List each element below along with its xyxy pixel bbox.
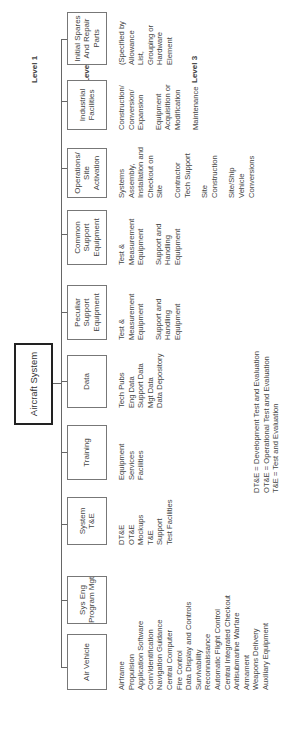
data-box: Data (67, 355, 107, 408)
list-item: Measurement (127, 219, 137, 265)
system-te-box: System T&E (67, 497, 107, 545)
industrial-list: Construction/ Conversion/ Expansion Equi… (117, 84, 200, 130)
box-label: Common Support Equipment (73, 218, 102, 256)
list-item: Measurement (127, 294, 137, 340)
list-item: Mgt Data (146, 354, 156, 408)
box-label: Sys Eng Program Mgt (78, 577, 97, 623)
legend-item: DT&E = Development Test and Evaluation (252, 351, 262, 493)
air-vehicle-box: Air Vehicle (67, 634, 107, 690)
list-item: Support Data (136, 354, 146, 408)
box-label: Initial Spares And Repair Parts (73, 15, 102, 61)
list-item: Facilities (136, 444, 146, 480)
spares-list: (Specified by Allowance List, Grouping o… (117, 21, 175, 65)
list-item: Expansion (136, 84, 146, 130)
list-item: (Specified by (117, 21, 127, 65)
list-item: Data Depository (155, 354, 165, 408)
legend-item: T&E = Test and Evaluation (271, 351, 281, 493)
operations-site-activation-box: Operations/ Site Activation (67, 148, 107, 198)
list-item: Contractor (173, 147, 183, 198)
list-item: Grouping or (146, 21, 156, 65)
list-item: Equipment (154, 84, 164, 130)
list-item: Support (155, 499, 165, 545)
list-item: Assembly, (127, 147, 137, 198)
level-2-bus (61, 40, 62, 668)
list-item: Test & (117, 219, 127, 265)
sys-eng-program-mgt-box: Sys Eng Program Mgt (67, 576, 107, 624)
list-item: Weapons Delivery (251, 595, 261, 690)
list-item: Services (127, 444, 137, 480)
list-item: Navigation Guidance (155, 595, 165, 690)
initial-spares-box: Initial Spares And Repair Parts (67, 12, 107, 65)
box-label: Industrial Facilities (78, 89, 97, 121)
list-item: Systems (117, 147, 127, 198)
aircraft-system-box: Aircraft System (14, 343, 53, 425)
list-item: DT&E (117, 499, 127, 545)
industrial-facilities-box: Industrial Facilities (67, 80, 107, 130)
system-te-list: DT&E OT&E Mockups T&E Support Test Facil… (117, 499, 175, 545)
list-item: T&E (146, 499, 156, 545)
list-item: Element (165, 21, 175, 65)
list-item: Fire Control (175, 595, 185, 690)
box-label: Operations/ Site Activation (73, 152, 102, 193)
training-box: Training (67, 425, 107, 480)
list-item: Test & (117, 294, 127, 340)
list-item: Tech Pubs (117, 354, 127, 408)
data-list: Tech Pubs Eng Data Support Data Mgt Data… (117, 354, 165, 408)
list-item: Application Software (136, 595, 146, 690)
list-item: Automatic Flight Control (213, 595, 223, 690)
list-item: List, (136, 21, 146, 65)
level-3-label: Level 3 (190, 56, 199, 83)
list-item: Handling (163, 294, 173, 340)
list-item: OT&E (127, 499, 137, 545)
list-item: Mockups (136, 499, 146, 545)
list-item: Antisubmarine Warfare (232, 595, 242, 690)
legend-item: OT&E = Operational Test and Evaluation (262, 351, 272, 493)
list-item: Support and (154, 294, 164, 340)
common-support-list: Test & Measurement Equipment Support and… (117, 219, 183, 265)
list-item: Conversion/ (127, 84, 137, 130)
box-label: Training (82, 438, 92, 467)
peculiar-support-equipment-box: Peculiar Support Equipment (67, 285, 107, 340)
list-item: Site (200, 147, 210, 198)
list-item: Acquisition or (163, 84, 173, 130)
list-item: Support and (154, 219, 164, 265)
level-1-label: Level 1 (30, 56, 39, 83)
box-label: System T&E (78, 508, 97, 535)
list-item: Equipment (173, 294, 183, 340)
list-item: Survivability (194, 595, 204, 690)
aircraft-system-label: Aircraft System (28, 352, 39, 416)
list-item: Allowance (127, 21, 137, 65)
list-item: Equipment (117, 444, 127, 480)
list-item: Eng Data (127, 354, 137, 408)
list-item: Reconnaissance (203, 595, 213, 690)
list-item: Tech Support (183, 147, 193, 198)
list-item: Central Computer (165, 595, 175, 690)
training-list: Equipment Services Facilities (117, 444, 146, 480)
list-item: Maintenance (191, 84, 201, 130)
list-item: Equipment (136, 294, 146, 340)
wbs-diagram: Level 1 Level 2 Level 3 Aircraft System … (0, 0, 304, 737)
list-item: Propulsion (127, 595, 137, 690)
list-item: Checkout on (146, 147, 156, 198)
list-item: Construction (210, 147, 220, 198)
air-vehicle-list: Airframe Propulsion Application Software… (117, 595, 271, 690)
list-item: Modification (173, 84, 183, 130)
list-item: Hardware (155, 21, 165, 65)
list-item: Data Display and Controls (184, 595, 194, 690)
list-item: Equipment (136, 219, 146, 265)
list-item: Armament (242, 595, 252, 690)
list-item: Installation and (136, 147, 146, 198)
box-label: Peculiar Support Equipment (73, 293, 102, 331)
list-item: Airframe (117, 595, 127, 690)
list-item: Construction/ (117, 84, 127, 130)
box-label: Air Vehicle (82, 643, 92, 681)
list-item: Central Integrated Checkout (223, 595, 233, 690)
root-connector (53, 383, 61, 384)
list-item: Test Facilities (165, 499, 175, 545)
list-item: Handling (163, 219, 173, 265)
list-item: Site (155, 147, 165, 198)
box-label: Data (82, 373, 92, 390)
list-item: Auxiliary Equipment (261, 595, 271, 690)
list-item: Com/Identification (146, 595, 156, 690)
operations-list: Systems Assembly, Installation and Check… (117, 147, 256, 198)
